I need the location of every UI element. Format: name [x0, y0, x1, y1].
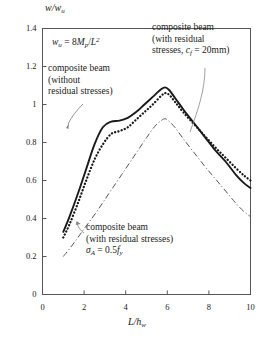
annotation-series-without-residual: composite beam (without residual stresse…	[48, 63, 113, 98]
annotation-line: stresses, cf = 20mm)	[152, 45, 230, 59]
annotation-line: (with residual stresses)	[86, 234, 173, 246]
x-tick-label: 2	[74, 302, 94, 312]
chart-figure: w/wu L/hw 00.20.40.60.811.21.4 0246810 w…	[0, 0, 263, 338]
x-tick-label: 0	[33, 302, 53, 312]
annotation-line: composite beam	[152, 22, 230, 34]
leader-line-left	[68, 104, 83, 124]
annotation-line: composite beam	[48, 63, 113, 75]
annotation-series-with-residual-sigma: composite beam (with residual stresses) …	[86, 222, 173, 259]
annotation-line: residual stresses)	[48, 86, 113, 98]
annotation-formula: wu = 8Mp/L2	[52, 35, 100, 51]
y-tick-label: 1	[13, 99, 37, 109]
y-tick-label: 0.6	[13, 175, 37, 185]
x-tick-label: 8	[199, 302, 219, 312]
y-tick-label: 1.2	[13, 61, 37, 71]
x-tick-label: 6	[157, 302, 177, 312]
y-tick-label: 0	[13, 289, 37, 299]
y-tick-label: 1.4	[13, 23, 37, 33]
annotation-series-with-residual-cf: composite beam (with residual stresses, …	[152, 22, 230, 59]
x-tick-label: 4	[116, 302, 136, 312]
y-tick-label: 0.8	[13, 137, 37, 147]
x-tick-marks	[43, 291, 251, 295]
curve-dotted	[63, 93, 250, 237]
x-tick-label: 10	[241, 302, 261, 312]
leader-arrow-left	[66, 123, 69, 129]
curve-solid	[63, 87, 250, 231]
y-tick-label: 0.4	[13, 213, 37, 223]
annotation-line: (without	[48, 75, 113, 87]
y-tick-marks	[43, 29, 47, 295]
y-tick-label: 0.2	[13, 251, 37, 261]
annotation-line: composite beam	[86, 222, 173, 234]
leader-arrow-bottom	[76, 221, 81, 225]
annotation-line: (with residual	[152, 34, 230, 46]
annotation-line: σA = 0.5fy	[86, 245, 173, 259]
